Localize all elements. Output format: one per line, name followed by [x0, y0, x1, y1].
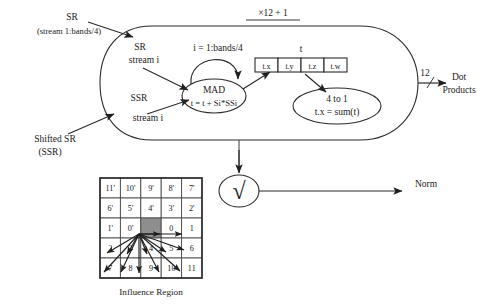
grid-cell-label: 7' — [189, 184, 195, 193]
ssr-stream-arrow — [147, 100, 189, 114]
influence-region-grid — [100, 178, 202, 278]
grid-cell-label: 0 — [169, 224, 173, 233]
grid-cell-label: 3' — [169, 204, 175, 213]
accumulator-component-x: t.x — [262, 62, 270, 71]
sqrt-symbol: √ — [232, 178, 246, 204]
grid-cell-label: 2' — [189, 204, 195, 213]
grid-cell-label: 9 — [149, 264, 153, 273]
grid-cell-label: 4' — [148, 204, 154, 213]
grid-cell-label: 11 — [188, 264, 196, 273]
ssr-stream-label-line2: stream i — [133, 113, 164, 123]
bus-width-label: 12 — [420, 68, 430, 78]
grid-cell-label: 10' — [126, 184, 136, 193]
sr-stream-label-line1: SR — [134, 42, 146, 52]
dot-products-label-line2: Products — [442, 85, 476, 95]
mad-title: MAD — [203, 85, 225, 95]
grid-cell-label: 10 — [167, 264, 175, 273]
reduce-title: 4 to 1 — [326, 94, 348, 104]
grid-cell-label: 11' — [106, 184, 116, 193]
dot-products-label-line1: Dot — [452, 72, 467, 82]
grid-cell-label: 6 — [190, 244, 194, 253]
accumulator-label: t — [300, 44, 303, 54]
sr-stream-label-line2: stream i — [129, 55, 160, 65]
grid-cell-label: 5' — [128, 204, 134, 213]
grid-cell-label: 7 — [108, 264, 112, 273]
sr-stream-arrow — [143, 68, 188, 90]
grid-cell-label: 2 — [108, 244, 112, 253]
grid-cell-label: 9' — [148, 184, 154, 193]
grid-cell-label: 1' — [107, 224, 113, 233]
mad-loop-label: i = 1:bands/4 — [193, 43, 243, 53]
mad-self-loop-arrow — [191, 60, 238, 84]
grid-cell-label: 8 — [129, 264, 133, 273]
grid-cell-label: 8' — [169, 184, 175, 193]
mad-to-accumulator-arrow — [243, 72, 270, 89]
mad-formula: t = t + Si*SSi — [191, 98, 238, 108]
norm-output-label: Norm — [415, 179, 438, 189]
shifted-sr-label-line2: (SSR) — [38, 147, 61, 158]
figure-root: ×12 + 1 SR (stream 1:bands/4) SR stream … — [0, 0, 477, 308]
sr-input-label: SR — [66, 12, 78, 22]
grid-cell-label: 5 — [169, 244, 173, 253]
sr-input-sublabel: (stream 1:bands/4) — [37, 26, 101, 36]
figure-caption: Influence Region — [119, 287, 183, 297]
reduce-formula: t.x = sum(t) — [315, 107, 360, 118]
grid-cell-label: 1 — [190, 224, 194, 233]
shifted-sr-input-arrow — [68, 114, 114, 134]
accumulator-component-y: t.y — [285, 62, 293, 71]
grid-cell-label: 6' — [107, 204, 113, 213]
grid-cell-label: 0' — [128, 224, 134, 233]
ssr-stream-label-line1: SSR — [131, 93, 149, 103]
shifted-sr-label-line1: Shifted SR — [34, 134, 76, 144]
accumulator-component-w: t.w — [331, 62, 341, 71]
grid-cell-label: 3 — [129, 244, 133, 253]
block-repeat-label: ×12 + 1 — [258, 8, 288, 18]
accumulator-component-z: t.z — [309, 62, 317, 71]
grid-cell-center — [141, 218, 161, 238]
diagram-canvas: ×12 + 1 SR (stream 1:bands/4) SR stream … — [0, 0, 477, 308]
grid-cell-label: 4 — [149, 244, 153, 253]
